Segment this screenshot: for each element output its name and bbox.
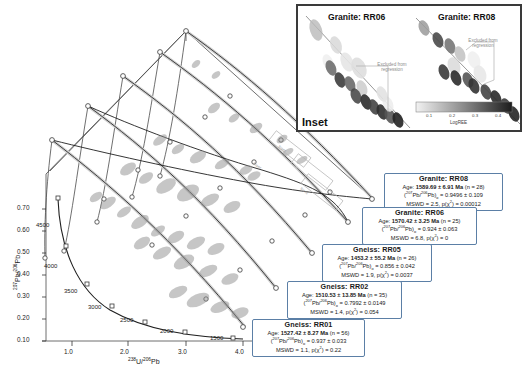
inset-title-rr06: Granite: RR06 [328,12,385,22]
callout-ratio: (207Pb/206Pb)o = 0.7992 ± 0.0149 [292,299,397,309]
callout-mswd: MSWD = 1.1, p(χ2) = 0.22 [257,346,360,354]
age-tick-2500: 2500 [120,317,133,323]
colorbar-tick-0.2: 0.2 [449,113,455,118]
age-tick-3500: 3500 [64,288,77,294]
callout-mswd: MSWD = 1.4, p(χ2) = 0.054 [292,308,397,316]
inset-annotation-left: Excluded from regression [370,62,414,72]
callout-ratio: (207Pb/206Pb)o = 0.856 ± 0.042 [327,262,427,272]
callout-gneiss-rr01: Gneiss: RR01 Age: 1527.42 ± 8.27 Ma (n =… [252,319,365,357]
y-axis-label: 207Pb/206Pb [13,255,21,290]
callout-granite-rr08: Granite: RR08 Age: 1589.69 ± 6.91 Ma (n … [384,173,503,211]
colorbar-tick-0.1: 0.1 [426,113,432,118]
age-tick-4500: 4500 [36,222,49,228]
callout-mswd: MSWD = 6.8, p(χ2) = 0 [367,234,472,242]
y-tick-0.60: 0.60 [17,226,29,233]
x-tick-4.0: 4.0 [235,348,244,355]
callout-title: Granite: RR08 [389,175,498,184]
y-tick-0.20: 0.20 [17,314,29,321]
callout-title: Gneiss: RR02 [292,283,397,292]
x-tick-3.0: 3.0 [178,348,187,355]
inset-title-rr08: Granite: RR08 [438,12,495,22]
axis-ticks [42,209,243,346]
callout-granite-rr06: Granite: RR06 Age: 1570.42 ± 3.25 Ma (n … [362,207,477,245]
x-axis-label: 238U/206Pb [128,357,160,365]
inset-ellipses-rr06 [307,18,406,130]
callout-ratio: (207Pb/206Pb)o = 0.924 ± 0.063 [367,225,472,235]
callout-title: Granite: RR06 [367,209,472,218]
callout-gneiss-rr02: Gneiss: RR02 Age: 1510.53 ± 13.85 Ma (n … [287,281,402,319]
colorbar-tick-0.4: 0.4 [495,113,501,118]
x-tick-2.0: 2.0 [120,348,129,355]
callout-title: Gneiss: RR01 [257,321,360,330]
callout-gneiss-rr05: Gneiss: RR05 Age: 1453.2 ± 55.2 Ma (n = … [322,244,432,282]
inset-label: Inset [302,116,328,128]
inset-colorbar [416,102,512,112]
inset-annotation-right: Excluded from regression [460,38,506,48]
inset-panel: Inset Granite: RR06 Granite: RR08 Exclud… [296,4,522,132]
callout-ratio: (207Pb/206Pb)o = 0.937 ± 0.033 [257,337,360,347]
colorbar-tick-0.3: 0.3 [472,113,478,118]
y-tick-0.30: 0.30 [17,292,29,299]
y-tick-0.70: 0.70 [17,204,29,211]
colorbar-label: LogREE [450,120,467,125]
callout-title: Gneiss: RR05 [327,246,427,255]
age-tick-3000: 3000 [88,304,101,310]
concordia-plane-rr01 [45,140,245,327]
figure-canvas: 0.70 0.60 0.50 0.40 0.30 0.20 0.10 207Pb… [0,0,526,375]
age-tick-2000: 2000 [160,328,173,334]
age-tick-1500: 1500 [210,335,223,341]
age-tick-4000: 4000 [44,263,57,269]
callout-mswd: MSWD = 1.9, p(χ2) = 0.0037 [327,271,427,279]
x-tick-1.0: 1.0 [64,348,73,355]
y-tick-0.10: 0.10 [17,336,29,343]
callout-ratio: (207Pb/206Pb)o = 0.9496 ± 0.109 [389,191,498,201]
